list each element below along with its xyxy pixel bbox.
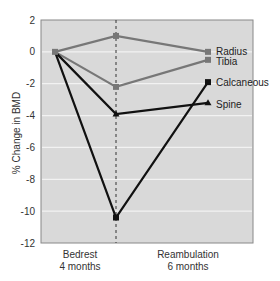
y-tick-label: -8 [26,174,35,185]
x-tick-bedrest-line1: Bedrest [63,249,98,260]
y-tick-label: 2 [29,15,35,26]
baseline-marker [52,49,58,55]
y-tick-label: 0 [29,46,35,57]
calcaneous-marker [205,79,211,85]
legend-tibia: Tibia [216,56,238,67]
calcaneous-marker [113,215,119,221]
y-tick-label: -4 [26,110,35,121]
radius-marker [205,49,211,55]
bmd-line-chart: 20-2-4-6-8-10-12 % Change in BMD RadiusT… [0,0,280,281]
tibia-marker [205,57,211,63]
y-tick-label: -2 [26,78,35,89]
tibia-marker [113,84,119,90]
x-tick-reambulation-line2: 6 months [167,261,208,272]
legend-spine: Spine [216,99,242,110]
y-axis-ticks: 20-2-4-6-8-10-12 [21,15,36,249]
radius-marker [113,33,119,39]
x-tick-reambulation-line1: Reambulation [157,249,219,260]
y-tick-label: -10 [21,206,36,217]
y-tick-label: -12 [21,238,36,249]
legend-calcaneous: Calcaneous [216,77,269,88]
x-tick-bedrest-line2: 4 months [59,261,100,272]
y-axis-label: % Change in BMD [11,92,22,174]
y-tick-label: -6 [26,142,35,153]
